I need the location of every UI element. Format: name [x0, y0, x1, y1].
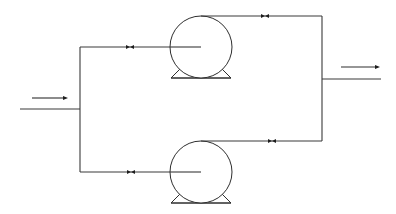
- pump-1-icon[interactable]: [170, 16, 232, 78]
- inlet-flow-arrow-icon: [32, 96, 68, 100]
- discharge-valve-1-icon[interactable]: [261, 14, 269, 18]
- outlet-flow-arrow-icon: [341, 65, 380, 69]
- parallel-pump-diagram: Parallel pump arrangement: [0, 0, 396, 214]
- suction-valve-2-icon[interactable]: [127, 170, 135, 174]
- suction-valve-1-icon[interactable]: [126, 45, 134, 49]
- discharge-valve-2-icon[interactable]: [268, 139, 276, 143]
- pump-2-icon[interactable]: [170, 141, 232, 203]
